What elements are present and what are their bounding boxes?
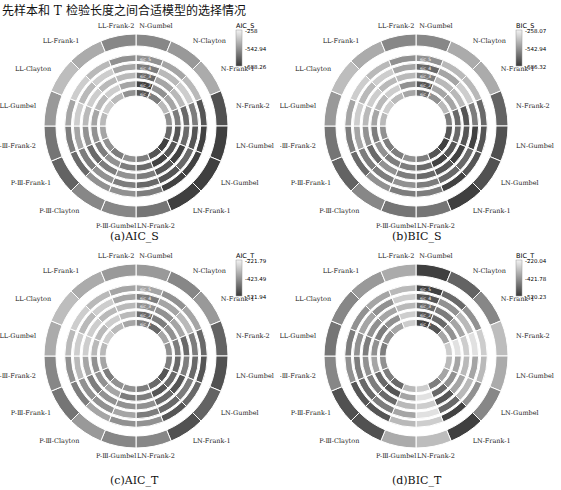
category-label: P-Ⅲ-Gumbel — [376, 222, 416, 230]
figure-title: 先样本和 T 检验长度之间合适模型的选择情况 — [2, 1, 246, 18]
colorbar — [236, 30, 242, 66]
category-label: P-Ⅲ-Clayton — [39, 207, 79, 215]
category-label: LN-Frank-2 — [417, 452, 455, 460]
outer-cell — [136, 264, 171, 282]
polar-heatmap-a: N-GumbelN-ClaytonN-Frank-1N-Frank-2LN-Gu… — [0, 18, 280, 246]
category-label: P-Ⅲ-Frank-2 — [0, 142, 36, 150]
heat-cell — [172, 126, 182, 143]
category-label: LN-Frank-2 — [137, 452, 175, 460]
category-label: LN-Frank-1 — [473, 207, 511, 215]
outer-cell — [210, 126, 228, 161]
heat-cell — [444, 342, 453, 356]
category-label: P-Ⅲ-Gumbel — [96, 222, 136, 230]
colorbar-tick: -686.32 — [525, 64, 546, 70]
category-label: LL-Frank-1 — [43, 37, 80, 45]
outer-cell — [101, 430, 136, 448]
heat-cell — [164, 112, 173, 126]
category-label: P-Ⅲ-Clayton — [39, 437, 79, 445]
heat-cell — [416, 392, 433, 402]
outer-cell — [381, 34, 416, 52]
caption-b: (b)BIC_S — [392, 230, 442, 243]
heat-cell — [452, 356, 462, 373]
heat-cell — [416, 384, 430, 393]
heat-cell — [164, 342, 173, 356]
outer-cell — [136, 200, 171, 218]
heat-cell — [172, 339, 182, 356]
heat-cell — [371, 356, 381, 373]
category-label: LN-Gumbel — [501, 179, 539, 187]
heat-cell — [99, 356, 108, 370]
category-label: P-Ⅲ-Frank-2 — [280, 372, 316, 380]
heat-cell — [119, 392, 136, 402]
heat-cell — [452, 339, 462, 356]
heat-cell — [172, 109, 182, 126]
heat-cell — [91, 109, 101, 126]
panel-b: N-GumbelN-ClaytonN-Frank-1N-Frank-2LN-Gu… — [280, 18, 561, 246]
category-label: LL-Frank-1 — [323, 267, 360, 275]
heat-cell — [379, 356, 388, 370]
heat-cell — [172, 356, 182, 373]
colorbar — [516, 30, 522, 66]
heat-cell — [122, 319, 136, 328]
category-label: LL-Gumbel — [280, 102, 316, 110]
heat-cell — [399, 311, 416, 321]
heat-cell — [136, 154, 150, 163]
category-label: LL-Gumbel — [0, 102, 36, 110]
category-label: P-Ⅲ-Frank-2 — [0, 372, 36, 380]
category-label: P-Ⅲ-Clayton — [319, 207, 359, 215]
colorbar-tick: -423.49 — [245, 276, 267, 282]
category-label: LL-Gumbel — [0, 332, 36, 340]
colorbar-tick: -542.94 — [245, 46, 267, 52]
heat-cell — [452, 109, 462, 126]
category-label: LL-Frank-2 — [378, 22, 415, 30]
outer-cell — [136, 430, 171, 448]
outer-cell — [324, 126, 342, 161]
heat-cell — [444, 112, 453, 126]
category-label: N-Clayton — [473, 37, 506, 45]
heat-cell — [371, 109, 381, 126]
outer-cell — [381, 200, 416, 218]
outer-cell — [324, 91, 342, 126]
category-label: LL-Frank-2 — [98, 252, 135, 260]
outer-cell — [416, 200, 451, 218]
category-label: P-Ⅲ-Frank-2 — [280, 142, 316, 150]
category-label: LL-Frank-1 — [323, 37, 360, 45]
heat-cell — [399, 392, 416, 402]
colorbar-tick: -542.94 — [525, 46, 547, 52]
category-label: P-Ⅲ-Clayton — [319, 437, 359, 445]
colorbar-tick: -220.04 — [525, 258, 547, 264]
outer-cell — [416, 430, 451, 448]
polar-heatmap-d: N-GumbelN-ClaytonN-Frank-1N-Frank-2LN-Gu… — [280, 248, 561, 490]
outer-cell — [381, 264, 416, 282]
heat-cell — [379, 126, 388, 140]
panel-a: N-GumbelN-ClaytonN-Frank-1N-Frank-2LN-Gu… — [0, 18, 280, 246]
outer-cell — [136, 34, 171, 52]
heat-cell — [402, 89, 416, 98]
category-label: P-Ⅲ-Gumbel — [376, 452, 416, 460]
outer-cell — [416, 264, 451, 282]
colorbar — [236, 260, 242, 296]
heat-cell — [99, 126, 108, 140]
outer-cell — [44, 126, 62, 161]
category-label: LN-Gumbel — [236, 142, 274, 150]
category-label: P-Ⅲ-Gumbel — [96, 452, 136, 460]
heat-cell — [91, 356, 101, 373]
colorbar-tick: -258.07 — [525, 28, 547, 34]
outer-cell — [490, 321, 508, 356]
outer-cell — [490, 356, 508, 391]
outer-cell — [101, 200, 136, 218]
category-label: N-Clayton — [473, 267, 506, 275]
category-label: LL-Frank-2 — [98, 22, 135, 30]
category-label: LN-Gumbel — [236, 372, 274, 380]
category-label: N-Frank-2 — [236, 332, 270, 340]
category-label: N-Gumbel — [419, 22, 453, 30]
colorbar-tick: -520.23 — [525, 294, 547, 300]
outer-cell — [324, 321, 342, 356]
category-label: LL-Frank-2 — [378, 252, 415, 260]
category-label: N-Gumbel — [139, 22, 173, 30]
outer-cell — [381, 430, 416, 448]
outer-cell — [490, 91, 508, 126]
category-label: LN-Frank-1 — [473, 437, 511, 445]
polar-heatmap-b: N-GumbelN-ClaytonN-Frank-1N-Frank-2LN-Gu… — [280, 18, 561, 246]
heat-cell — [119, 162, 136, 172]
